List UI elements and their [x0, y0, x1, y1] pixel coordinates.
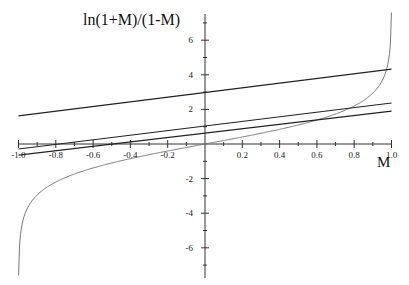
x-tick-label: 0.6	[311, 150, 323, 160]
plot-area: -1.0-0.8-0.6-0.4-0.20.20.40.60.81.0642-2…	[0, 0, 409, 285]
chart-container: -1.0-0.8-0.6-0.4-0.20.20.40.60.81.0642-2…	[0, 0, 409, 285]
y-tick-label: -6	[186, 243, 194, 253]
x-tick-label: 0.8	[349, 150, 361, 160]
x-tick-label: 0.4	[274, 150, 286, 160]
x-axis-label: M	[377, 154, 390, 170]
axes: -1.0-0.8-0.6-0.4-0.20.20.40.60.81.0642-2…	[11, 14, 397, 278]
x-tick-label: -0.6	[86, 150, 101, 160]
y-tick-label: -4	[186, 208, 194, 218]
y-tick-label: 4	[189, 70, 194, 80]
x-tick-label: 0.2	[237, 150, 248, 160]
y-tick-label: 6	[189, 35, 194, 45]
y-tick-label: 2	[189, 104, 194, 114]
y-tick-label: -2	[186, 174, 194, 184]
y-axis-label: ln(1+M)/(1-M)	[83, 11, 180, 29]
